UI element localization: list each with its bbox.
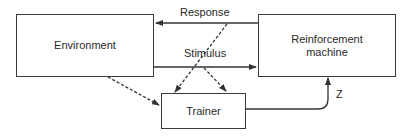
response-label: Response bbox=[180, 6, 230, 19]
environment-box: Environment bbox=[16, 14, 154, 77]
stimulus-to-trainer-dashed-arrow bbox=[204, 68, 226, 91]
z-arrow bbox=[245, 78, 328, 109]
z-label: Z bbox=[336, 88, 343, 101]
trainer-box: Trainer bbox=[161, 93, 246, 129]
environment-label: Environment bbox=[54, 39, 116, 52]
environment-to-trainer-dashed-arrow bbox=[108, 77, 159, 105]
reinforcement-machine-box: Reinforcement machine bbox=[258, 14, 396, 77]
trainer-label: Trainer bbox=[186, 105, 220, 118]
reinforcement-machine-label-line2: machine bbox=[306, 46, 348, 59]
stimulus-label: Stimulus bbox=[184, 47, 226, 60]
reinforcement-machine-label-line1: Reinforcement bbox=[291, 33, 363, 46]
